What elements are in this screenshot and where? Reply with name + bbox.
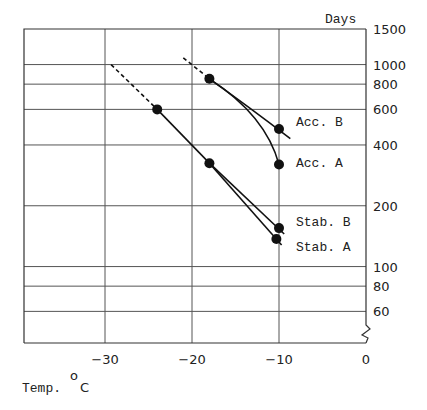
labels: −30−20−100150010008006004002001008060Acc… [91,22,406,367]
series-label: Stab. B [296,215,351,230]
grid [24,29,366,343]
y-tick-label: 200 [373,199,398,214]
y-tick-label: 1500 [373,22,406,37]
plot-frame [24,29,370,343]
series-label: Acc. B [296,115,343,130]
series-line-stab-b [209,163,284,234]
x-tick-label: −20 [178,352,205,367]
y-tick-label: 400 [373,138,398,153]
y-axis-line-with-break [362,29,370,343]
y-tick-label: 80 [373,279,390,294]
y-tick-label: 800 [373,77,398,92]
x-axis-label: Temp. [22,381,61,396]
degree-symbol: o [70,368,78,383]
series-label: Stab. A [296,240,351,255]
data-point [271,234,281,244]
y-tick-label: 100 [373,260,398,275]
data-point [204,158,214,168]
data-point [274,160,284,170]
y-tick-label: 600 [373,102,398,117]
series-line-stab-common [157,109,209,163]
y-axis-label: Days [325,12,356,27]
data-point [274,223,284,233]
series-label: Acc. A [296,156,343,171]
data-point [274,124,284,134]
stab-extrapolation-dash [111,65,157,110]
chart: −30−20−100150010008006004002001008060Acc… [0,0,427,410]
x-tick-label: 0 [362,352,370,367]
y-tick-label: 60 [373,304,390,319]
series-line-stab-a [209,163,281,245]
data-point [204,74,214,84]
series [111,58,290,245]
x-tick-label: −30 [91,352,118,367]
x-tick-label: −10 [265,352,292,367]
acc-extrapolation-dash [183,58,209,79]
x-axis-unit: C [80,380,89,395]
plot-frame-top-left [24,29,366,343]
y-tick-label: 1000 [373,58,406,73]
data-point [152,104,162,114]
